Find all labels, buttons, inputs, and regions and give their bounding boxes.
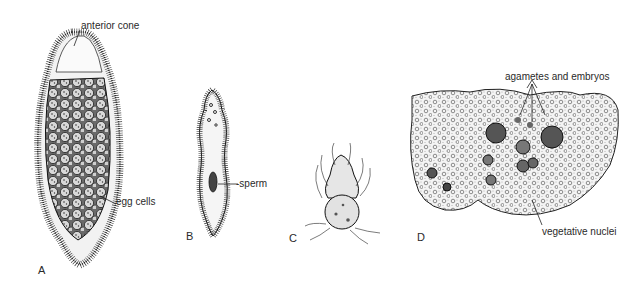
panel-c-organism xyxy=(305,143,380,244)
panel-letter-a: A xyxy=(38,264,45,276)
label-egg-cells: egg cells xyxy=(116,196,155,207)
panel-d-organism xyxy=(411,80,619,225)
figure-drawing xyxy=(0,0,641,287)
panel-letter-b: B xyxy=(186,230,193,242)
label-vegetative-nuclei: vegetative nuclei xyxy=(542,226,617,237)
panel-letter-c: C xyxy=(289,232,297,244)
label-anterior-cone: anterior cone xyxy=(81,20,139,31)
panel-b-organism xyxy=(200,90,239,236)
label-agametes-embryos: agametes and embryos xyxy=(505,71,610,82)
panel-a-organism xyxy=(38,32,120,265)
panel-letter-d: D xyxy=(417,231,425,243)
label-sperm: -sperm xyxy=(236,178,267,189)
